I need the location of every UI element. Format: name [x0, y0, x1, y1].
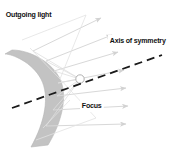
- outgoing-ray-1: [33, 18, 101, 51]
- outgoing-ray-3: [54, 52, 118, 71]
- focus-point: [76, 75, 84, 83]
- convex-mirror-diagram: Outgoing light Axis of symmetry Focus: [0, 0, 186, 155]
- label-focus: Focus: [80, 100, 103, 112]
- diagram-canvas: [0, 0, 186, 155]
- label-axis-of-symmetry: Axis of symmetry: [108, 35, 167, 47]
- convex-mirror: [5, 50, 64, 147]
- mirror-body: [5, 50, 64, 147]
- label-outgoing-light: Outgoing light: [4, 9, 53, 21]
